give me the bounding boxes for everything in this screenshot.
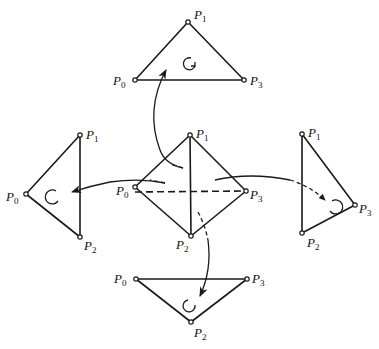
center-label-p1: P1 xyxy=(196,127,208,143)
left-face-label-p1: P1 xyxy=(86,128,98,144)
bottom-face-label-p0: P0 xyxy=(114,272,126,288)
bottom-face-label-p3: P3 xyxy=(252,272,264,288)
center-tetrahedron xyxy=(135,135,246,236)
diagram-drawing xyxy=(0,0,379,349)
center-label-p2: P2 xyxy=(176,238,188,254)
rotation-arrow-icon xyxy=(330,200,343,214)
rotation-arrow-icon xyxy=(45,190,58,204)
top-face-triangle xyxy=(135,22,244,80)
center-label-p0: P0 xyxy=(116,184,128,200)
left-face-label-p0: P0 xyxy=(6,190,18,206)
top-face-label-p0: P0 xyxy=(113,74,125,90)
right-face-triangle xyxy=(302,134,355,233)
top-face-label-p1: P1 xyxy=(194,8,206,24)
left-face-label-p2: P2 xyxy=(84,239,96,255)
right-face-label-p1: P1 xyxy=(308,126,320,142)
left-face-triangle xyxy=(26,135,80,237)
bottom-face-triangle xyxy=(136,279,247,322)
bottom-face-label-p2: P2 xyxy=(194,326,206,342)
tetrahedron-faces-diagram: P1 P0 P3 P1 P0 P2 P1 P3 P2 P0 P3 P2 P1 P… xyxy=(0,0,379,349)
unfold-arrows xyxy=(72,70,325,296)
rotation-arrow-icon xyxy=(183,300,195,312)
rotation-arrow-icon xyxy=(183,58,195,70)
center-label-p3: P3 xyxy=(250,188,262,204)
top-face-label-p3: P3 xyxy=(250,74,262,90)
right-face-label-p2: P2 xyxy=(307,236,319,252)
right-face-label-p3: P3 xyxy=(359,202,371,218)
